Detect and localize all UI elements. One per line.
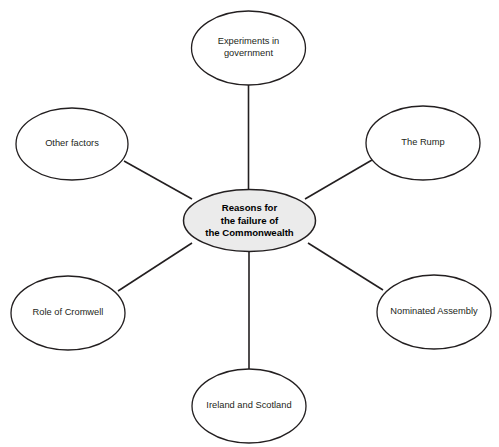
- node-label-ireland-and-scotland: Ireland and Scotland: [206, 400, 291, 410]
- node-label-line: Role of Cromwell: [33, 307, 104, 317]
- node-label-line: the Commonwealth: [205, 227, 294, 238]
- diagram-canvas: Experiments ingovernmentThe RumpNominate…: [0, 0, 499, 447]
- node-label-role-of-cromwell: Role of Cromwell: [33, 307, 104, 317]
- node-other-factors[interactable]: Other factors: [16, 108, 128, 180]
- node-nominated-assembly[interactable]: Nominated Assembly: [377, 275, 491, 349]
- connector-center-to-the-rump: [305, 160, 372, 199]
- node-center[interactable]: Reasons forthe failure ofthe Commonwealt…: [184, 190, 316, 252]
- node-label-other-factors: Other factors: [45, 138, 99, 148]
- node-ireland-and-scotland[interactable]: Ireland and Scotland: [192, 369, 306, 443]
- node-experiments-in-government[interactable]: Experiments ingovernment: [192, 11, 306, 85]
- node-label-line: Other factors: [45, 138, 99, 148]
- connector-center-to-nominated-assembly: [308, 243, 383, 290]
- node-label-line: Nominated Assembly: [390, 306, 478, 316]
- mind-map-diagram: Experiments ingovernmentThe RumpNominate…: [0, 0, 499, 447]
- node-label-nominated-assembly: Nominated Assembly: [390, 306, 478, 316]
- node-label-line: Experiments in: [218, 36, 280, 46]
- connector-center-to-other-factors: [124, 161, 192, 199]
- node-label-line: government: [224, 48, 274, 58]
- node-the-rump[interactable]: The Rump: [366, 106, 480, 180]
- node-role-of-cromwell[interactable]: Role of Cromwell: [11, 276, 125, 350]
- node-group: Experiments ingovernmentThe RumpNominate…: [11, 11, 491, 443]
- node-label-line: The Rump: [401, 137, 444, 147]
- connector-center-to-role-of-cromwell: [118, 243, 192, 291]
- node-label-line: Reasons for: [222, 202, 278, 213]
- node-label-line: Ireland and Scotland: [206, 400, 291, 410]
- node-label-the-rump: The Rump: [401, 137, 444, 147]
- node-label-line: the failure of: [221, 214, 279, 225]
